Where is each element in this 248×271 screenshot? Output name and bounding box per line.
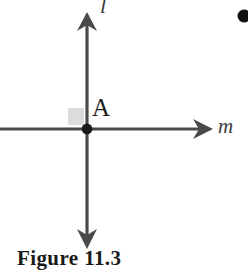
geometry-diagram [0, 0, 248, 271]
label-point-a: A [92, 95, 110, 120]
intersection-point-dot [82, 124, 93, 135]
label-line-m: m [218, 116, 233, 137]
diagram-background [0, 0, 248, 271]
figure-container: l m A Figure 11.3 [0, 0, 248, 271]
right-angle-marker-icon [68, 108, 84, 125]
figure-caption: Figure 11.3 [17, 246, 121, 271]
label-line-l: l [100, 0, 106, 17]
